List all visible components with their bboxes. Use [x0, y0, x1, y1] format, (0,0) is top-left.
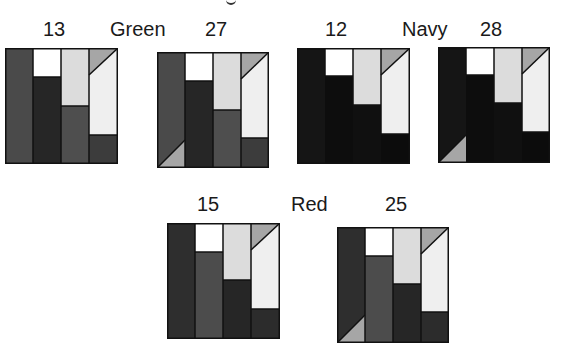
navy-swatch-left — [297, 48, 410, 164]
clipped-title-fragment — [226, 0, 236, 5]
red-left-value: 15 — [197, 194, 219, 214]
green-right-value: 27 — [205, 19, 227, 39]
red-swatch-left — [167, 223, 280, 339]
green-group-label: Green — [110, 19, 166, 39]
navy-swatch-right — [438, 47, 550, 163]
green-left-value: 13 — [43, 19, 65, 39]
green-swatch-left — [5, 48, 118, 164]
navy-left-value: 12 — [325, 19, 347, 39]
red-group-label: Red — [291, 194, 328, 214]
red-swatch-right — [337, 227, 449, 343]
green-swatch-right — [157, 52, 269, 168]
navy-right-value: 28 — [480, 19, 502, 39]
navy-group-label: Navy — [402, 19, 448, 39]
red-right-value: 25 — [385, 194, 407, 214]
